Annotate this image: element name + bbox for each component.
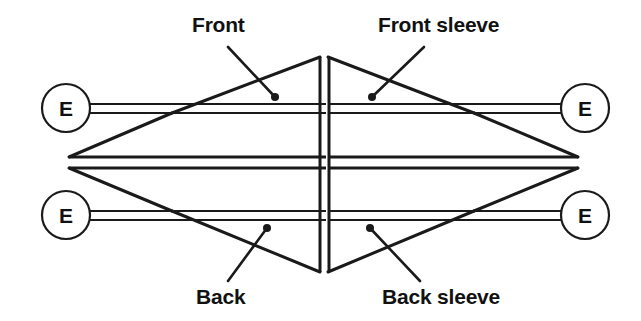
garment-panel-diagram: E E E E <box>0 0 641 321</box>
label-front-sleeve: Front sleeve <box>378 14 499 35</box>
leader-dot-front <box>271 93 279 101</box>
needle-marker-top-left[interactable]: E <box>42 84 90 132</box>
needle-shaft-top-right <box>330 104 561 113</box>
needle-marker-top-right[interactable]: E <box>561 84 609 132</box>
needle-marker-bottom-left[interactable]: E <box>42 191 90 239</box>
leader-dot-back-sleeve <box>366 224 374 232</box>
leader-back <box>228 224 271 281</box>
needle-letter: E <box>578 204 592 227</box>
leader-dot-front-sleeve <box>368 93 376 101</box>
needle-letter: E <box>59 97 73 120</box>
label-back-sleeve: Back sleeve <box>382 286 500 307</box>
needle-shaft-top-left <box>90 104 326 113</box>
diagram-canvas: E E E E Front <box>0 0 641 321</box>
leader-dot-back <box>263 224 271 232</box>
label-back: Back <box>196 286 245 307</box>
needle-marker-bottom-right[interactable]: E <box>561 191 609 239</box>
needle-letter: E <box>59 204 73 227</box>
needle-shaft-bottom-left <box>90 211 326 220</box>
panel-front-edges <box>69 57 320 157</box>
needle-letter: E <box>578 97 592 120</box>
label-front: Front <box>192 14 245 35</box>
needle-shaft-bottom-right <box>330 211 561 220</box>
panel-front-sleeve-edges <box>328 57 578 157</box>
